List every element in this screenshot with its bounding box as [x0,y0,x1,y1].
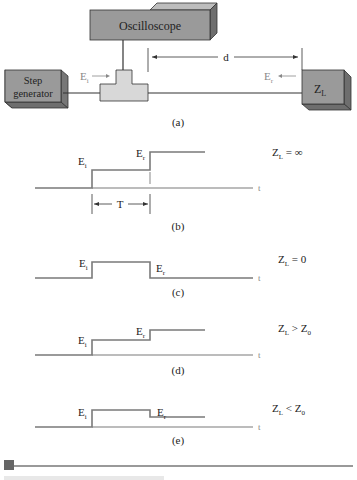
caption-cutoff [4,476,164,480]
load-impedance-box: ZL [302,70,351,110]
waveform-e [35,410,205,427]
caption-e: (e) [172,434,185,447]
load-condition-d: ZL > Z0 [278,322,311,337]
waveform-panel-d: t Ei Er ZL > Z0 (d) [35,322,311,377]
reflected-label: Er [264,70,274,85]
waveform-panel-e: t Ei Er ZL < Z0 (e) [35,402,305,447]
footer-rule [4,460,353,480]
time-axis-label: t [258,422,261,432]
incident-arrow: Ei [80,70,110,85]
caption-c: (c) [172,286,185,299]
step-generator-box: Step generator [5,70,68,108]
load-condition-b: ZL = ∞ [272,146,303,161]
time-axis-label: t [258,350,261,360]
caption-b: (b) [172,220,185,233]
waveform-panel-b: t Ei Er T ZL = ∞ (b) [35,146,303,233]
waveform-c [35,262,253,278]
waveform-panel-c: t Ei Er ZL = 0 (c) [35,253,307,299]
waveform-b [35,152,205,188]
incident-step-label: Ei [79,257,88,272]
time-axis-label: t [258,183,261,193]
setup-diagram: Oscilloscope Step generator Ei [5,3,351,129]
distance-dimension: d [148,48,302,72]
generator-label-line1: Step [24,75,43,86]
incident-step-label: Ei [78,406,87,421]
incident-label: Ei [80,70,89,85]
reflected-step-label: Er [156,262,166,277]
caption-d: (d) [172,364,185,377]
time-axis-label: t [258,273,261,283]
waveform-d [35,330,205,355]
reflected-step-label: Er [136,325,146,340]
load-condition-e: ZL < Z0 [272,402,305,417]
reflected-arrow: Er [264,70,296,85]
footer-marker [4,460,14,470]
generator-label-line2: generator [13,88,53,99]
distance-label: d [223,51,229,63]
reflected-step-label: Er [136,147,146,162]
oscilloscope-box: Oscilloscope [90,3,217,40]
oscilloscope-label: Oscilloscope [119,19,181,33]
load-condition-c: ZL = 0 [278,253,307,268]
caption-a: (a) [172,116,185,129]
period-label: T [117,198,124,210]
incident-step-label: Ei [78,334,87,349]
reflected-step-label: Er [157,406,167,421]
incident-step-label: Ei [78,155,87,170]
tdr-diagram: Oscilloscope Step generator Ei [0,0,357,480]
